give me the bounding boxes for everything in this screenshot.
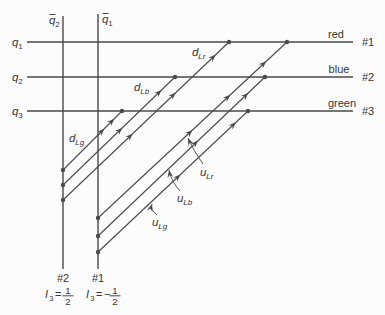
dLb-start-vertex <box>61 183 65 187</box>
uLr-end-vertex <box>285 40 289 44</box>
uLr-leader-arrow-icon <box>185 137 193 146</box>
dLr-start-vertex <box>61 198 65 202</box>
line-number-qbar2: #2 <box>57 272 69 284</box>
uLg-start-vertex <box>96 250 100 254</box>
qbar1-isospin-sign: − <box>104 288 110 300</box>
dLg-start-vertex <box>61 168 65 172</box>
uLr-label-subscript: Lr <box>206 172 213 181</box>
dLb-label-subscript: Lb <box>140 87 149 96</box>
qbar2-label-subscript: 2 <box>55 20 60 29</box>
uLg-end-vertex <box>246 109 250 113</box>
qbar1-label-subscript: 1 <box>108 19 113 28</box>
q3-label-subscript: 3 <box>18 111 23 120</box>
q1-label-subscript: 1 <box>18 42 23 51</box>
dLr-label-subscript: Lr <box>198 52 205 61</box>
uLb-end-vertex <box>263 75 267 79</box>
qbar1-isospin-denominator: 2 <box>112 296 117 307</box>
line-number-q3: #3 <box>362 105 374 117</box>
uLg-label-subscript: Lg <box>158 222 167 231</box>
qbar2-isospin-subscript: 3 <box>49 294 53 303</box>
dLr-end-vertex <box>227 40 231 44</box>
line-number-q1: #1 <box>362 36 374 48</box>
labels-group: q1red#1q2blue#2q3green#3q2#2I3=12q1#1I3=… <box>12 13 374 307</box>
dLg-label-subscript: Lg <box>75 138 84 147</box>
uLr-start-vertex <box>96 216 100 220</box>
qbar2-isospin-numerator: 1 <box>65 285 70 296</box>
qbar2-isospin-denominator: 2 <box>65 296 70 307</box>
qbar1-isospin-equals: = <box>96 288 102 300</box>
dLg-end-vertex <box>120 109 124 113</box>
line-number-qbar1: #1 <box>92 272 104 284</box>
diagram-canvas: q1red#1q2blue#2q3green#3q2#2I3=12q1#1I3=… <box>0 0 385 315</box>
color-name-blue: blue <box>329 63 350 75</box>
uLb-start-vertex <box>96 234 100 238</box>
quark-diagonal-uLb <box>98 77 265 236</box>
qbar2-isospin-equals: = <box>55 288 61 300</box>
qbar1-isospin-numerator: 1 <box>112 285 117 296</box>
qbar1-isospin-base: I <box>86 288 89 300</box>
uLb-label-subscript: Lb <box>183 198 192 207</box>
dLb-end-vertex <box>173 75 177 79</box>
qbar1-isospin-subscript: 3 <box>90 294 94 303</box>
color-name-red: red <box>328 28 344 40</box>
quark-line-diagram: q1red#1q2blue#2q3green#3q2#2I3=12q1#1I3=… <box>0 0 385 315</box>
q2-label-subscript: 2 <box>18 77 23 86</box>
line-number-q2: #2 <box>362 71 374 83</box>
qbar2-isospin-base: I <box>45 288 48 300</box>
uLg-leader-line <box>152 204 157 215</box>
color-name-green: green <box>328 97 356 109</box>
